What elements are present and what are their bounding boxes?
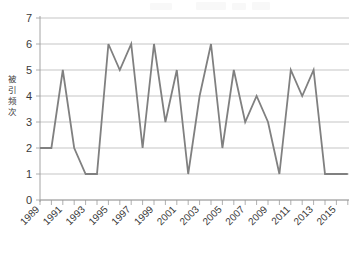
- y-tick-label: 6: [26, 38, 32, 50]
- chart-canvas: 7 6 5 4 3 2 1 0 被 引 频 次: [0, 0, 360, 259]
- y-axis-title-char: 被: [8, 74, 17, 84]
- y-tick-label: 4: [26, 90, 32, 102]
- y-tick-label: 2: [26, 142, 32, 154]
- y-tick-label: 1: [26, 168, 32, 180]
- y-tick-label: 3: [26, 116, 32, 128]
- y-axis-title-char: 次: [8, 107, 17, 117]
- y-tick-label: 0: [26, 194, 32, 206]
- y-axis-title-char: 频: [8, 96, 17, 106]
- citation-frequency-line-chart: 7 6 5 4 3 2 1 0 被 引 频 次: [0, 0, 360, 259]
- y-axis-title-char: 引: [8, 85, 17, 95]
- scan-artifacts: [150, 2, 270, 10]
- y-tick-label: 5: [26, 64, 32, 76]
- y-axis-title: 被 引 频 次: [8, 74, 17, 117]
- y-tick-label: 7: [26, 12, 32, 24]
